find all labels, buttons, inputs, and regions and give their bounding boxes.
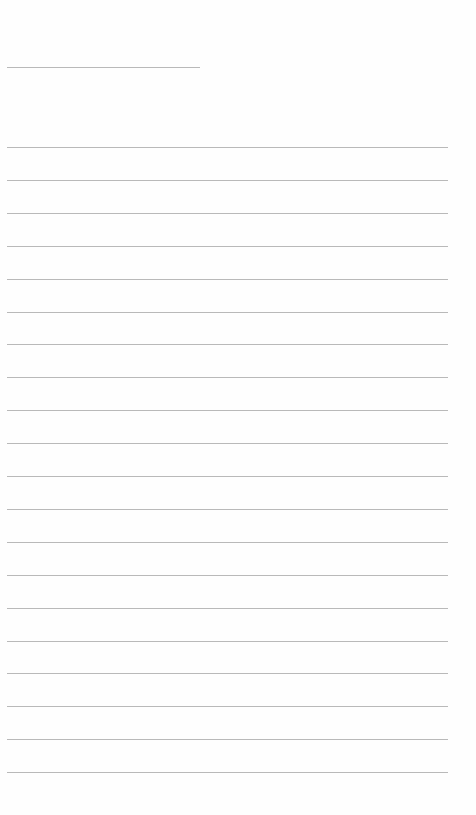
line-rule bbox=[7, 772, 448, 773]
line-rule bbox=[7, 706, 448, 707]
writing-line-input[interactable] bbox=[7, 454, 448, 474]
writing-line-input[interactable] bbox=[7, 290, 448, 310]
line-rule bbox=[7, 739, 448, 740]
line-rule bbox=[7, 608, 448, 609]
writing-line-input[interactable] bbox=[7, 717, 448, 737]
line-rule bbox=[7, 641, 448, 642]
writing-line-input[interactable] bbox=[7, 520, 448, 540]
header-rule bbox=[7, 67, 200, 68]
writing-line-input[interactable] bbox=[7, 487, 448, 507]
writing-line-input[interactable] bbox=[7, 125, 448, 145]
line-rule bbox=[7, 246, 448, 247]
line-rule bbox=[7, 509, 448, 510]
writing-line-input[interactable] bbox=[7, 586, 448, 606]
line-rule bbox=[7, 377, 448, 378]
writing-line-input[interactable] bbox=[7, 651, 448, 671]
line-rule bbox=[7, 443, 448, 444]
writing-line-input[interactable] bbox=[7, 421, 448, 441]
writing-line-input[interactable] bbox=[7, 322, 448, 342]
line-rule bbox=[7, 410, 448, 411]
line-rule bbox=[7, 279, 448, 280]
writing-line-input[interactable] bbox=[7, 750, 448, 770]
writing-line-input[interactable] bbox=[7, 355, 448, 375]
writing-line-input[interactable] bbox=[7, 553, 448, 573]
writing-line-input[interactable] bbox=[7, 388, 448, 408]
writing-line-input[interactable] bbox=[7, 684, 448, 704]
line-rule bbox=[7, 147, 448, 148]
writing-line-input[interactable] bbox=[7, 224, 448, 244]
line-rule bbox=[7, 542, 448, 543]
writing-line-input[interactable] bbox=[7, 619, 448, 639]
line-rule bbox=[7, 180, 448, 181]
lined-paper-page bbox=[0, 0, 476, 815]
writing-line-input[interactable] bbox=[7, 191, 448, 211]
writing-line-input[interactable] bbox=[7, 257, 448, 277]
line-rule bbox=[7, 476, 448, 477]
writing-line-input[interactable] bbox=[7, 158, 448, 178]
line-rule bbox=[7, 673, 448, 674]
header-input[interactable] bbox=[7, 47, 200, 65]
line-rule bbox=[7, 575, 448, 576]
line-rule bbox=[7, 312, 448, 313]
line-rule bbox=[7, 213, 448, 214]
line-rule bbox=[7, 344, 448, 345]
